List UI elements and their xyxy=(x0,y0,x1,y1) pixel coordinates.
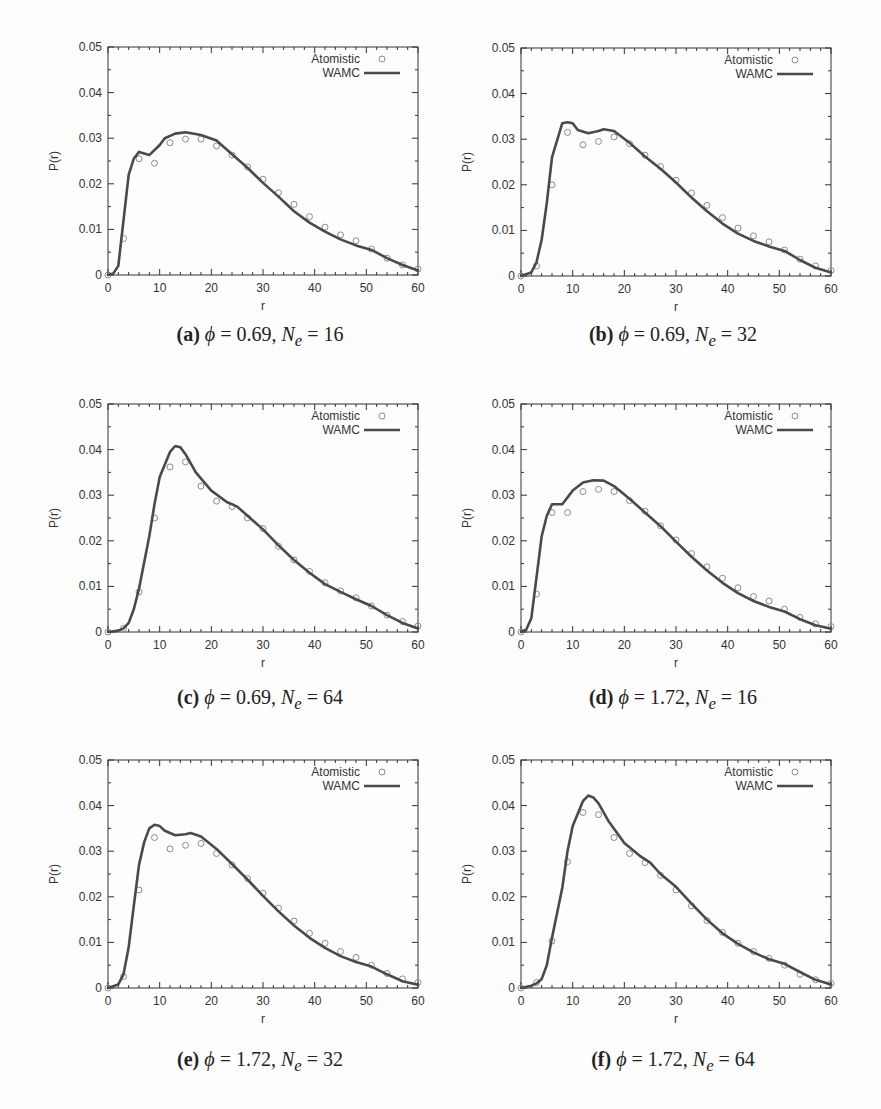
panel-e: 010203040506000.010.020.030.040.05rP(r)A… xyxy=(40,733,470,1033)
x-tick-label: 60 xyxy=(824,282,838,296)
plot-frame xyxy=(108,404,418,632)
x-tick-label: 30 xyxy=(256,994,270,1008)
x-tick-label: 50 xyxy=(360,994,374,1008)
atomistic-marker xyxy=(214,498,220,504)
x-axis-label: r xyxy=(261,1012,265,1026)
wamc-curve xyxy=(521,796,831,988)
atomistic-marker xyxy=(611,134,617,140)
y-tick-label: 0 xyxy=(95,625,102,639)
plot-frame xyxy=(521,760,831,988)
y-tick-label: 0.05 xyxy=(492,397,516,411)
y-axis-label: P(r) xyxy=(460,152,474,172)
x-tick-label: 60 xyxy=(824,994,838,1008)
x-tick-label: 30 xyxy=(669,994,683,1008)
atomistic-marker xyxy=(766,239,772,245)
legend-circle-icon xyxy=(792,413,798,419)
x-tick-label: 0 xyxy=(518,638,525,652)
panel-a: 010203040506000.010.020.030.040.05rP(r)A… xyxy=(40,20,470,320)
y-tick-label: 0.05 xyxy=(79,753,103,767)
ne-value: 64 xyxy=(323,686,343,708)
y-tick-label: 0.03 xyxy=(79,131,103,145)
legend-label: Atomistic xyxy=(724,409,773,423)
y-tick-label: 0.02 xyxy=(79,890,103,904)
atomistic-marker xyxy=(167,140,173,146)
atomistic-marker xyxy=(735,225,741,231)
x-tick-label: 50 xyxy=(773,994,787,1008)
atomistic-marker xyxy=(198,483,204,489)
legend-circle-icon xyxy=(792,57,798,63)
atomistic-marker xyxy=(183,136,189,142)
y-tick-label: 0.01 xyxy=(79,222,103,236)
caption-label: (c) xyxy=(177,686,199,708)
x-tick-label: 40 xyxy=(721,282,735,296)
caption-c: (c) ϕ = 0.69, Ne = 64 xyxy=(45,686,475,714)
y-tick-label: 0.02 xyxy=(79,177,103,191)
ne-value: 32 xyxy=(323,1048,343,1070)
panel-b: 010203040506000.010.020.030.040.05rP(r)A… xyxy=(453,21,881,321)
x-axis-label: r xyxy=(674,300,678,314)
atomistic-marker xyxy=(152,160,158,166)
phi-value: 1.72 xyxy=(648,1048,683,1070)
x-axis-label: r xyxy=(674,656,678,670)
atomistic-marker xyxy=(596,486,602,492)
ne-value: 16 xyxy=(324,323,344,345)
y-tick-label: 0.01 xyxy=(492,223,516,237)
y-tick-label: 0 xyxy=(508,269,515,283)
y-tick-label: 0.03 xyxy=(79,488,103,502)
y-tick-label: 0.05 xyxy=(492,41,516,55)
x-tick-label: 40 xyxy=(308,994,322,1008)
legend-label: WAMC xyxy=(735,423,773,437)
y-tick-label: 0.02 xyxy=(492,534,516,548)
y-tick-label: 0.04 xyxy=(79,443,103,457)
atomistic-marker xyxy=(627,850,633,856)
plot-frame xyxy=(108,47,418,275)
atomistic-marker xyxy=(167,464,173,470)
atomistic-marker xyxy=(580,142,586,148)
y-axis-label: P(r) xyxy=(460,508,474,528)
x-tick-label: 20 xyxy=(205,994,219,1008)
y-axis-label: P(r) xyxy=(47,864,61,884)
ne-value: 64 xyxy=(735,1048,755,1070)
atomistic-marker xyxy=(183,842,189,848)
x-tick-label: 0 xyxy=(105,638,112,652)
atomistic-marker xyxy=(704,202,710,208)
x-tick-label: 10 xyxy=(566,638,580,652)
y-tick-label: 0.01 xyxy=(79,935,103,949)
y-tick-label: 0.04 xyxy=(492,799,516,813)
x-tick-label: 20 xyxy=(618,282,632,296)
y-tick-label: 0.03 xyxy=(492,844,516,858)
atomistic-marker xyxy=(565,129,571,135)
phi-symbol: ϕ xyxy=(204,1048,214,1070)
x-tick-label: 50 xyxy=(773,638,787,652)
legend-label: Atomistic xyxy=(311,409,360,423)
y-axis-label: P(r) xyxy=(47,508,61,528)
phi-symbol: ϕ xyxy=(204,686,214,708)
x-tick-label: 20 xyxy=(618,994,632,1008)
atomistic-marker xyxy=(152,835,158,841)
chart-svg: 010203040506000.010.020.030.040.05rP(r)A… xyxy=(40,733,470,1033)
panel-f: 010203040506000.010.020.030.040.05rP(r)A… xyxy=(453,733,881,1033)
x-tick-label: 40 xyxy=(721,638,735,652)
x-tick-label: 10 xyxy=(153,994,167,1008)
y-tick-label: 0.03 xyxy=(492,132,516,146)
wamc-curve xyxy=(108,446,418,632)
legend-label: Atomistic xyxy=(311,765,360,779)
legend-label: WAMC xyxy=(735,779,773,793)
legend-label: WAMC xyxy=(322,779,360,793)
y-tick-label: 0.02 xyxy=(492,178,516,192)
x-tick-label: 30 xyxy=(669,282,683,296)
phi-value: 1.72 xyxy=(650,686,685,708)
panel-d: 010203040506000.010.020.030.040.05rP(r)A… xyxy=(453,377,881,677)
caption-label: (d) xyxy=(589,686,613,708)
x-tick-label: 50 xyxy=(773,282,787,296)
y-tick-label: 0.05 xyxy=(79,397,103,411)
ne-symbol: N xyxy=(281,1048,294,1070)
x-tick-label: 10 xyxy=(566,994,580,1008)
x-tick-label: 60 xyxy=(411,638,425,652)
wamc-curve xyxy=(108,825,418,988)
y-tick-label: 0.04 xyxy=(492,443,516,457)
x-tick-label: 10 xyxy=(566,282,580,296)
y-tick-label: 0.04 xyxy=(79,799,103,813)
legend-circle-icon xyxy=(379,413,385,419)
ne-value: 16 xyxy=(737,686,757,708)
